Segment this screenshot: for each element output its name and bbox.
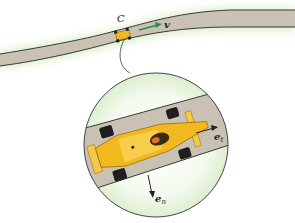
velocity-label: v — [164, 19, 170, 30]
diagram-canvas: v C — [0, 0, 295, 223]
road-overview — [0, 8, 295, 68]
zoom-connector-line — [120, 40, 130, 73]
point-c-label: C — [117, 13, 125, 24]
